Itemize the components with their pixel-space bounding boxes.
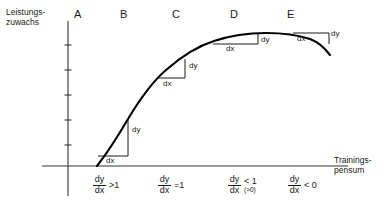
diagram-vector-layer: [0, 0, 386, 214]
fraction-denominator: dx: [229, 186, 241, 195]
slope-label-d-dy: dy: [261, 36, 269, 45]
fraction-denominator: dx: [94, 186, 106, 195]
fraction-dy-dx: dy dx: [93, 175, 106, 196]
formula-relation: < 1 (>0): [244, 177, 257, 194]
formula-relation-text: >1: [109, 181, 119, 190]
fraction-numerator: dy: [289, 175, 301, 184]
section-label-c: C: [172, 8, 180, 20]
formula-c: dy dx =1: [158, 175, 184, 196]
fraction-numerator: dy: [159, 175, 171, 184]
formula-d: dy dx < 1 (>0): [228, 175, 257, 196]
y-axis-label-line2: zuwachs: [6, 18, 45, 28]
formula-relation-text: < 0: [304, 181, 317, 190]
x-axis-label: Trainings- pensum: [334, 156, 371, 175]
fraction-numerator: dy: [94, 175, 106, 184]
formula-e: dy dx < 0: [288, 175, 317, 196]
fraction-dy-dx: dy dx: [158, 175, 171, 196]
section-label-e: E: [287, 8, 294, 20]
slope-label-b-dx: dx: [106, 157, 114, 166]
slope-label-c-dy: dy: [189, 62, 197, 71]
section-label-b: B: [120, 8, 127, 20]
slope-triangle-c: [158, 59, 185, 78]
slope-label-e-dx: dx: [297, 35, 305, 44]
x-axis-label-line2: pensum: [334, 166, 371, 176]
slope-label-c-dx: dx: [163, 80, 171, 89]
performance-curve: [97, 33, 330, 166]
diagram-canvas: Leistungs- zuwachs Trainings- pensum A B…: [0, 0, 386, 214]
fraction-numerator: dy: [229, 175, 241, 184]
fraction-denominator: dx: [289, 186, 301, 195]
section-label-d: D: [230, 8, 238, 20]
slope-label-b-dy: dy: [132, 126, 140, 135]
formula-relation: < 0: [304, 181, 317, 190]
section-label-a: A: [74, 8, 81, 20]
formula-relation-subnote: (>0): [244, 187, 256, 194]
formula-b: dy dx >1: [93, 175, 119, 196]
formula-relation: >1: [109, 181, 119, 190]
fraction-dy-dx: dy dx: [228, 175, 241, 196]
fraction-denominator: dx: [159, 186, 171, 195]
formula-relation: =1: [174, 181, 184, 190]
slope-label-e-dy: dy: [331, 30, 339, 39]
formula-relation-text: < 1: [244, 177, 257, 186]
formula-relation-text: =1: [174, 181, 184, 190]
slope-label-d-dx: dx: [226, 45, 234, 54]
fraction-dy-dx: dy dx: [288, 175, 301, 196]
y-axis-label: Leistungs- zuwachs: [6, 8, 45, 27]
